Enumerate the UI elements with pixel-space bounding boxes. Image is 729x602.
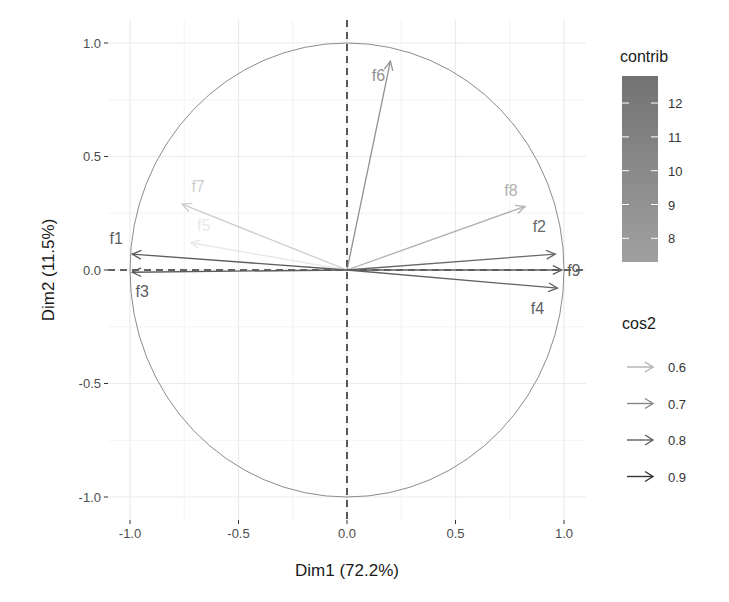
y-tick-label: 1.0 (83, 36, 101, 51)
y-tick-label: -1.0 (79, 490, 101, 505)
legend-cos2: cos2 0.60.70.80.9 (622, 315, 686, 485)
cos2-key-0.6 (627, 362, 653, 372)
y-tick-label: -0.5 (79, 376, 101, 391)
variable-f6: f6 (347, 61, 393, 270)
cos2-key-label: 0.8 (668, 433, 686, 448)
colorbar-tick-label: 8 (668, 231, 675, 246)
arrow-shaft (347, 270, 557, 288)
variable-f5: f5 (191, 217, 347, 270)
y-tick-label: 0.0 (83, 263, 101, 278)
cos2-key-0.7 (627, 399, 653, 409)
axes: -1.0-0.50.00.51.01.00.50.0-0.5-1.0 (79, 36, 573, 542)
variable-f9: f9 (347, 262, 581, 279)
x-axis-title: Dim1 (72.2%) (295, 561, 399, 580)
y-tick-label: 0.5 (83, 149, 101, 164)
variable-f3: f3 (132, 268, 347, 300)
variable-f2: f2 (347, 218, 555, 270)
x-tick-label: 1.0 (555, 526, 573, 541)
contrib-colorbar (622, 76, 658, 262)
variable-label: f9 (567, 262, 580, 279)
variable-label: f2 (533, 218, 546, 235)
variable-f8: f8 (347, 182, 525, 270)
cos2-key-0.9 (627, 472, 653, 482)
colorbar-tick-label: 10 (668, 164, 682, 179)
cos2-legend-keys: 0.60.70.80.9 (627, 360, 686, 485)
variable-label: f7 (191, 178, 204, 195)
variable-label: f4 (531, 300, 544, 317)
y-axis-title: Dim2 (11.5%) (39, 219, 58, 322)
pca-variable-plot: -1.0-0.50.00.51.01.00.50.0-0.5-1.0 f1f2f… (0, 0, 729, 602)
x-tick-label: -0.5 (227, 526, 249, 541)
legend-contrib-title: contrib (620, 48, 668, 65)
variable-f4: f4 (347, 270, 557, 317)
x-tick-label: 0.5 (446, 526, 464, 541)
arrow-shaft (191, 243, 347, 270)
variable-label: f1 (109, 230, 122, 247)
variable-label: f6 (372, 67, 385, 84)
colorbar-tick-label: 11 (668, 130, 682, 145)
variable-label: f3 (135, 283, 148, 300)
variable-label: f5 (197, 217, 210, 234)
arrow-shaft (347, 206, 525, 270)
variable-label: f8 (504, 182, 517, 199)
x-tick-label: -1.0 (119, 526, 141, 541)
legend-contrib: contrib 12111098 (620, 48, 682, 262)
cos2-key-0.8 (627, 435, 653, 445)
x-tick-label: 0.0 (338, 526, 356, 541)
cos2-key-label: 0.6 (668, 360, 686, 375)
colorbar-tick-label: 12 (668, 96, 682, 111)
arrow-shaft (347, 254, 555, 270)
cos2-key-label: 0.7 (668, 397, 686, 412)
arrow-shaft (347, 61, 390, 270)
legend-cos2-title: cos2 (622, 315, 656, 332)
cos2-key-label: 0.9 (668, 470, 686, 485)
colorbar-tick-label: 9 (668, 198, 675, 213)
